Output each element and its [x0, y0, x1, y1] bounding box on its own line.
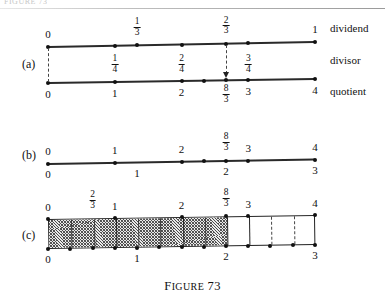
- figure-73-root: FIGURE 73 (a) 013231 142434 0128334 divi…: [0, 0, 385, 300]
- dividend-tick-label: 1: [312, 24, 318, 35]
- panel-letter-c: (c): [22, 228, 35, 243]
- panel-b-dot: [246, 159, 250, 163]
- fraction-numerator: 1: [111, 54, 118, 64]
- divisor-tick-label: 24: [178, 55, 185, 75]
- bar-bottom-dot: [68, 247, 72, 251]
- quotient-tick-label: 83: [223, 85, 230, 105]
- fraction-numerator: 8: [223, 84, 230, 94]
- panel-c-top-tick-label: 3: [246, 199, 252, 210]
- bar-top-dot: [113, 216, 117, 220]
- bar-bottom-dot: [224, 244, 228, 248]
- panel-c-top-tick-label: 83: [223, 189, 230, 209]
- panel-b-top-tick-label: 2: [179, 144, 185, 155]
- fraction-denominator: 3: [89, 200, 96, 211]
- quotient-tick-label: 0: [45, 89, 51, 100]
- fraction-numerator: 1: [134, 17, 141, 27]
- panel-b-bottom-tick-label: 0: [45, 169, 51, 180]
- panel-b-top-tick-label: 3: [246, 143, 252, 154]
- fraction-numerator: 2: [178, 54, 185, 64]
- dividend-tick-label: 13: [134, 18, 141, 38]
- fraction-numerator: 3: [245, 54, 252, 64]
- quotient-dot: [224, 78, 228, 82]
- panel-b-dot: [180, 160, 184, 164]
- bar-unit-divider: [249, 217, 250, 245]
- quotient-tick-label: 3: [246, 86, 252, 97]
- quotient-tick-label: 1: [112, 88, 118, 99]
- fraction-denominator: 4: [111, 64, 118, 75]
- dividend-tick-label: 23: [223, 17, 230, 37]
- bar-bottom-dot: [202, 245, 206, 249]
- quotient-tick-label: 4: [312, 85, 318, 96]
- panel-c-top-tick-label: 23: [89, 191, 96, 211]
- quotient-dot: [313, 77, 317, 81]
- bar-top-dot: [313, 213, 317, 217]
- bar-dashed-divider: [294, 216, 295, 244]
- panel-letter-a: (a): [22, 57, 35, 72]
- bar-dashed-divider: [271, 217, 272, 245]
- row-label-quotient: quotient: [330, 86, 366, 97]
- fraction: 24: [178, 54, 185, 74]
- bar-bottom-dot: [180, 245, 184, 249]
- bar-top-dot: [46, 217, 50, 221]
- panel-c-bottom-tick-label: 0: [45, 254, 51, 265]
- panel-c-bottom-tick-label: 2: [223, 251, 229, 262]
- quotient-dot: [246, 78, 250, 82]
- panel-b-dot: [313, 158, 317, 162]
- fraction-denominator: 4: [245, 64, 252, 75]
- panel-letter-b: (b): [22, 148, 36, 163]
- quotient-dot: [180, 79, 184, 83]
- fraction-denominator: 3: [134, 27, 141, 38]
- unit-bar: [48, 215, 315, 249]
- bar-top-dot: [180, 215, 184, 219]
- bar-unit-divider: [227, 217, 228, 245]
- dividend-dot: [113, 44, 117, 48]
- projection-dashed-line: [48, 48, 49, 82]
- quotient-tick-label: 2: [179, 87, 185, 98]
- row-label-divisor: divisor: [330, 55, 361, 66]
- quotient-dot: [113, 80, 117, 84]
- bar-bottom-dot: [46, 247, 50, 251]
- panel-b-top-tick-label: 0: [45, 146, 51, 157]
- running-head-text: FIGURE 73: [4, 0, 47, 4]
- bar-bottom-dot: [291, 243, 295, 247]
- bar-bottom-dot: [91, 246, 95, 250]
- fraction-denominator: 3: [223, 94, 230, 105]
- fraction: 83: [223, 188, 230, 208]
- bar-bottom-dot: [135, 246, 139, 250]
- fraction: 34: [245, 54, 252, 74]
- projection-dashed-line: [226, 45, 227, 75]
- panel-b-dot: [46, 162, 50, 166]
- divisor-tick-label: 34: [245, 55, 252, 75]
- dividend-dot: [180, 43, 184, 47]
- panel-c-top-tick-label: 4: [312, 198, 318, 209]
- fraction-numerator: 2: [89, 190, 96, 200]
- figure-caption-text: FIGURE 73: [164, 279, 220, 293]
- projection-arrowhead: [223, 72, 229, 78]
- fraction: 13: [134, 17, 141, 37]
- fraction-denominator: 4: [178, 64, 185, 75]
- quotient-dot: [202, 79, 206, 83]
- panel-b-top-tick-label: 4: [312, 142, 318, 153]
- figure-caption: FIGURE 73: [0, 276, 385, 294]
- divisor-tick-label: 14: [111, 55, 118, 75]
- panel-c-top-tick-label: 1: [112, 201, 118, 212]
- bar-bottom-dot: [246, 244, 250, 248]
- fraction-denominator: 3: [223, 25, 230, 36]
- panel-b-dot: [113, 161, 117, 165]
- row-label-dividend: dividend: [330, 23, 369, 34]
- panel-c-bottom-tick-label: 3: [312, 250, 318, 261]
- panel-b-top-tick-label: 83: [223, 133, 230, 153]
- dividend-dot: [246, 41, 250, 45]
- fraction: 23: [223, 16, 230, 36]
- panel-b-dot: [224, 159, 228, 163]
- panel-c-bottom-tick-label: 1: [134, 253, 140, 264]
- panel-b-top-tick-label: 1: [112, 145, 118, 156]
- caption-word: FIGURE: [164, 281, 204, 292]
- bar-bottom-dot: [157, 245, 161, 249]
- dividend-dot: [135, 43, 139, 47]
- fraction-numerator: 8: [223, 132, 230, 142]
- panel-b-bottom-tick-label: 2: [223, 166, 229, 177]
- panel-c-top-tick-label: 0: [45, 202, 51, 213]
- caption-number: 73: [204, 279, 221, 293]
- panel-b-bottom-tick-label: 3: [312, 165, 318, 176]
